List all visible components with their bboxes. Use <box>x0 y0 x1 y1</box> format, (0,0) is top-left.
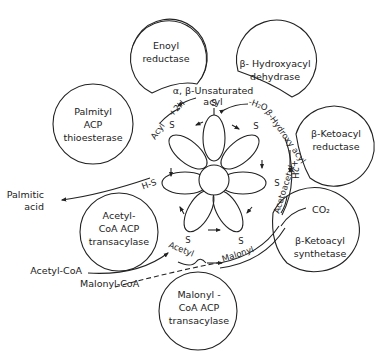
svg-text:β-Ketoacyl: β-Ketoacyl <box>311 128 361 139</box>
svg-text:S: S <box>253 121 258 131</box>
svg-text:dehydrase: dehydrase <box>250 71 300 82</box>
svg-text:β-Ketoacyl: β-Ketoacyl <box>295 235 345 246</box>
svg-text:reductase: reductase <box>142 53 189 64</box>
label-acyl: Acyl <box>148 121 166 141</box>
svg-text:thioesterase: thioesterase <box>63 132 122 143</box>
svg-text:Acetyl-: Acetyl- <box>103 210 136 221</box>
label-unsaturated: α, β-Unsaturated <box>173 85 254 96</box>
fatty-acid-synthase-diagram: Enoyl reductase β- Hydroxyacyl dehydrase… <box>0 0 386 360</box>
enzyme-palmityl-thioesterase: Palmityl ACP thioesterase <box>53 84 133 164</box>
svg-text:reductase: reductase <box>312 141 359 152</box>
enzyme-malonyl-transacylase: Malonyl - CoA ACP transacylase <box>159 272 237 350</box>
label-acetyl: Acetyl <box>167 240 195 259</box>
label-co2: CO₂ <box>312 204 330 215</box>
svg-text:Enoyl: Enoyl <box>153 40 179 51</box>
svg-text:transacylase: transacylase <box>89 236 149 247</box>
label-acid: acid <box>24 201 44 212</box>
svg-text:S: S <box>238 236 243 246</box>
svg-text:CoA ACP: CoA ACP <box>179 302 220 313</box>
svg-text:S: S <box>185 235 190 245</box>
label-acetyl-coa: Acetyl-CoA <box>30 265 82 276</box>
svg-text:β- Hydroxyacyl: β- Hydroxyacyl <box>239 58 310 69</box>
svg-text:CoA ACP: CoA ACP <box>99 223 140 234</box>
svg-text:H-S: H-S <box>140 177 157 191</box>
label-plus-2h-left: +2H <box>166 98 186 118</box>
label-unsaturated-acyl: acyl <box>203 96 222 107</box>
enzyme-enoyl-reductase: Enoyl reductase <box>131 19 208 93</box>
label-malonyl: Malonyl <box>221 244 255 264</box>
svg-text:transacylase: transacylase <box>169 315 229 326</box>
label-malonyl-coa: Malonyl-CoA <box>80 278 140 289</box>
acp-flower <box>162 115 266 236</box>
svg-text:S: S <box>169 120 174 130</box>
svg-text:ACP: ACP <box>84 119 103 130</box>
svg-text:Malonyl -: Malonyl - <box>177 289 220 300</box>
enzyme-acetyl-transacylase: Acetyl- CoA ACP transacylase <box>80 193 158 271</box>
enzyme-ketoacyl-reductase: β-Ketoacyl reductase <box>296 106 374 186</box>
label-palmitic: Palmitic <box>7 189 44 200</box>
svg-text:synthetase: synthetase <box>294 248 347 259</box>
svg-text:Palmityl: Palmityl <box>74 106 112 117</box>
